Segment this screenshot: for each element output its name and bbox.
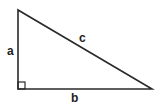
right-angle-marker xyxy=(18,82,25,89)
label-b: b xyxy=(71,91,78,105)
right-triangle-diagram: a c b xyxy=(0,0,159,105)
triangle-shape xyxy=(18,10,152,89)
label-a: a xyxy=(7,44,14,58)
label-c: c xyxy=(79,31,86,45)
